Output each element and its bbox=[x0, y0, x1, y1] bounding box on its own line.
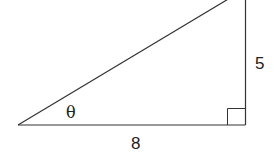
height-label: 5 bbox=[255, 54, 264, 73]
angle-label: θ bbox=[66, 103, 76, 122]
right-angle-marker bbox=[228, 109, 246, 126]
right-triangle-diagram: θ 8 5 bbox=[0, 0, 277, 158]
hypotenuse bbox=[18, 0, 230, 125]
base-label: 8 bbox=[131, 134, 140, 153]
